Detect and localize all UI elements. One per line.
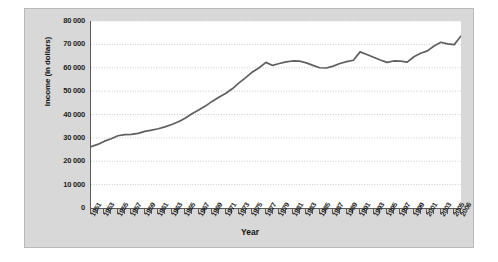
y-tick-label: 10 000 (37, 180, 85, 189)
y-tick-label: 20 000 (37, 156, 85, 165)
plot-area (91, 21, 461, 208)
line-chart-svg (91, 21, 461, 208)
y-tick-label: 70 000 (37, 39, 85, 48)
y-axis-tick-labels: 80 00070 00060 00050 00040 00030 00020 0… (33, 9, 85, 249)
y-tick-label: 80 000 (37, 16, 85, 25)
y-tick-label: 50 000 (37, 86, 85, 95)
y-tick-label: 60 000 (37, 63, 85, 72)
chart-figure: Income (in dollars) 80 00070 00060 00050… (24, 8, 474, 248)
y-tick-label: 0 (37, 203, 85, 212)
y-tick-label: 40 000 (37, 110, 85, 119)
y-axis-line (90, 21, 91, 209)
x-axis-title: Year (25, 227, 475, 237)
y-tick-label: 30 000 (37, 133, 85, 142)
